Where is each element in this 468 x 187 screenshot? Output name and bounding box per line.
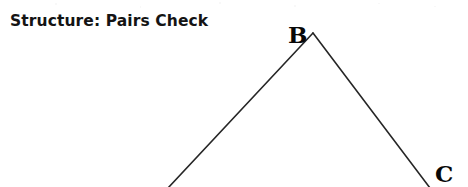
- diagram-canvas: Structure: Pairs Check B C: [0, 0, 468, 187]
- right-branch-line: [313, 33, 430, 187]
- node-label-b: B: [288, 23, 307, 46]
- left-branch-line: [168, 33, 313, 187]
- tree-diagram: [0, 0, 468, 187]
- node-label-c: C: [435, 162, 453, 185]
